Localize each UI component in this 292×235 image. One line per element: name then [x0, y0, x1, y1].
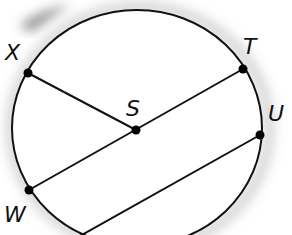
label-u: U — [268, 103, 284, 125]
point-u — [256, 131, 265, 140]
label-s: S — [126, 98, 140, 120]
label-t: T — [243, 36, 256, 58]
point-s — [132, 126, 141, 135]
geometry-diagram: X T S U W — [0, 0, 292, 235]
circle — [12, 10, 262, 235]
label-x: X — [5, 42, 20, 64]
point-x — [24, 69, 33, 78]
point-w — [25, 186, 34, 195]
label-w: W — [4, 204, 26, 226]
point-t — [239, 65, 248, 74]
